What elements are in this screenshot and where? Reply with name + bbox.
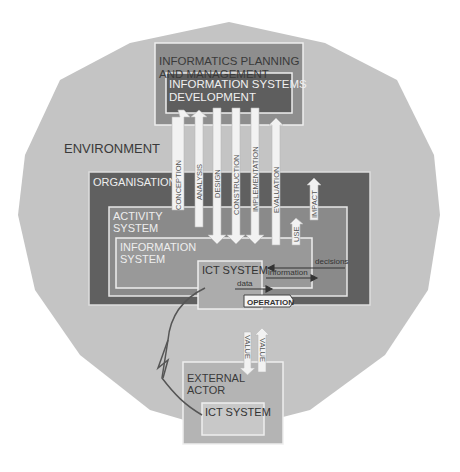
value-up-label: VALUE — [258, 338, 267, 362]
design-label: DESIGN — [213, 169, 222, 198]
external-actor-label-line1: EXTERNAL — [187, 372, 245, 384]
planning-label-line1: INFORMATICS PLANNING — [159, 55, 299, 67]
external-actor-label-line2: ACTOR — [187, 384, 225, 396]
construction-label: CONSTRUCTION — [232, 155, 241, 215]
information-system-label-line2: SYSTEM — [120, 253, 165, 265]
information-label: information — [268, 268, 308, 277]
ict-diagram: INFORMATICS PLANNING AND MANAGEMENT INFO… — [0, 0, 460, 472]
decisions-label: decisions — [315, 257, 348, 266]
activity-system-label-line2: SYSTEM — [113, 222, 158, 234]
development-label-line1: INFORMATION SYSTEMS — [169, 78, 307, 90]
impact-label: IMPACT — [310, 190, 319, 218]
data-label: data — [237, 279, 253, 288]
environment-label: ENVIRONMENT — [64, 141, 160, 156]
use-label: USE — [292, 227, 301, 242]
ict-system-inner-label: ICT SYSTEM — [202, 264, 268, 276]
implementation-label: IMPLEMENTATION — [251, 146, 260, 212]
activity-system-label-line1: ACTIVITY — [113, 210, 163, 222]
evaluation-label: EVALUATION — [272, 167, 281, 213]
organisation-label: ORGANISATION — [93, 176, 177, 188]
analysis-label: ANALYSIS — [195, 164, 204, 200]
value-down-label: VALUE — [243, 335, 252, 359]
information-system-label-line1: INFORMATION — [120, 241, 196, 253]
ict-system-external-label: ICT SYSTEM — [205, 406, 271, 418]
conception-label: CONCEPTION — [174, 160, 183, 210]
development-label-line2: DEVELOPMENT — [169, 91, 256, 103]
operation-label: OPERATION — [247, 298, 294, 307]
